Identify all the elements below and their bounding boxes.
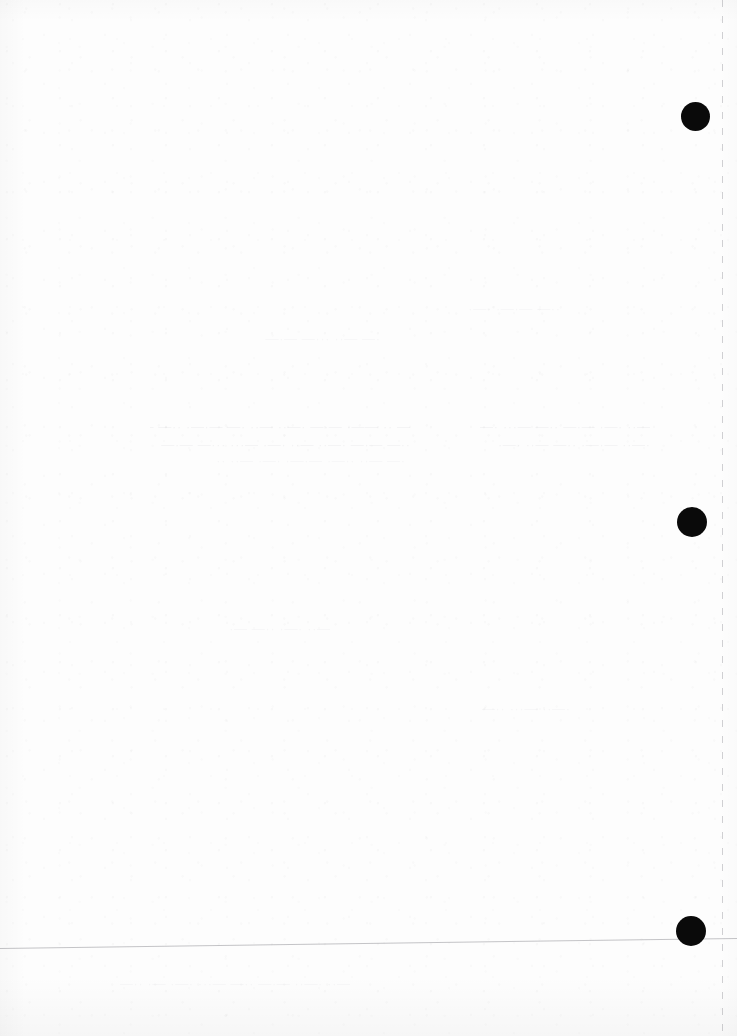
bleed-through-line: ·— —·· ··—· —·—· ·—· —·· ·· xyxy=(205,452,405,469)
bleed-through-line: ··— —·— ·—·· —·· ·—· —··· ···— —·—· ·—··… xyxy=(160,436,410,453)
bleed-through-line: —·· ·—· —·— ··— —··· ·— xyxy=(470,418,650,435)
bottom-horizontal-rule xyxy=(0,938,737,949)
paper-texture xyxy=(0,0,737,1036)
bleed-through-line: —·· ·—· ··— —· xyxy=(180,620,330,637)
hole-mark-bottom xyxy=(676,916,706,946)
scan-edge-shading xyxy=(0,0,737,1036)
dashed-vertical-guide xyxy=(722,0,723,1036)
bleed-through-line: ·— —·· ···— —·— xyxy=(230,330,380,347)
bleed-through-line: ·—·· —·—· ··— —·· ·—· xyxy=(480,436,650,453)
bleed-through-line: — ·· ——· —·— ·—·· —·· ·— —·—· ··— —··· ·… xyxy=(150,418,410,435)
hole-mark-top xyxy=(681,102,710,131)
bleed-through-line: —·· ·—·· —·— ··— —··· ·—· —· ··—· xyxy=(120,975,350,992)
scanned-document-page: — ·· ——· —·— ·—·· —·· ·— —·—· ··— —··· ·… xyxy=(0,0,737,1036)
bleed-through-line: ··— —·—· ·—· xyxy=(420,300,560,317)
bleed-through-line: ·—·· —··· ··— xyxy=(430,700,570,717)
hole-mark-middle xyxy=(677,507,707,537)
